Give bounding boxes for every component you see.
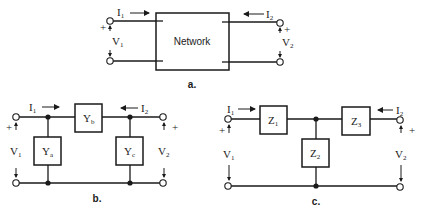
voltage-v2-label: V2 (282, 36, 294, 50)
diagram-b-pi-network: Yb Ya Yc I1 I2 + V1 + V2 b. (6, 101, 178, 204)
terminal-a-out-bottom (277, 59, 283, 65)
current-i1-label: I1 (117, 6, 125, 20)
network-label: Network (174, 36, 212, 47)
terminal-a-in-top (107, 18, 113, 24)
caption-c: c. (312, 196, 321, 207)
diagram-c-t-network: Z1 Z3 Z2 I1 I2 + V1 + V2 c. (219, 103, 415, 207)
junction-node (313, 116, 318, 121)
voltage-v2-label: V2 (158, 145, 170, 159)
voltage-v1-label: V1 (112, 35, 124, 49)
terminal-b-out-bottom (160, 180, 166, 186)
plus-sign: + (100, 21, 106, 33)
current-i1-label: I1 (227, 103, 235, 117)
terminal-b-in-bottom (13, 180, 19, 186)
terminal-a-out-top (277, 20, 283, 26)
diagram-a-general-network: Network I1 I2 + V1 + V2 a. (100, 6, 294, 90)
voltage-v2-label: V2 (395, 148, 407, 162)
terminal-a-in-bottom (107, 58, 113, 64)
terminal-b-out-top (160, 114, 166, 120)
junction-node (45, 180, 50, 185)
junction-node (127, 114, 132, 119)
two-port-network-figure: Network I1 I2 + V1 + V2 a. Yb (0, 0, 425, 214)
current-i2-label: I2 (266, 8, 274, 22)
junction-node (127, 180, 132, 185)
plus-sign: + (409, 124, 415, 136)
caption-a: a. (188, 79, 197, 90)
plus-sign: + (6, 121, 12, 133)
plus-sign: + (284, 23, 290, 35)
voltage-v1-label: V1 (10, 145, 22, 159)
caption-b: b. (93, 193, 102, 204)
terminal-c-out-bottom (397, 184, 403, 190)
terminal-b-in-top (13, 114, 19, 120)
current-i2-label: I2 (141, 102, 149, 116)
plus-sign: + (172, 121, 178, 133)
current-i2-label: I2 (396, 104, 404, 118)
junction-node (313, 183, 318, 188)
current-i1-label: I1 (29, 101, 37, 115)
plus-sign: + (219, 124, 225, 136)
voltage-v1-label: V1 (223, 148, 235, 162)
junction-node (45, 114, 50, 119)
terminal-c-in-bottom (225, 183, 231, 189)
